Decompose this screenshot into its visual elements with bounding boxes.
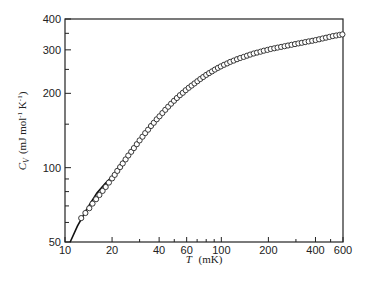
data-point [90, 201, 95, 206]
x-axis-title: T (mK) [186, 253, 223, 266]
x-tick-label: 200 [259, 244, 277, 256]
y-axis-title: CV(mJ mol-1 K-1) [16, 91, 31, 170]
data-point [83, 210, 88, 215]
data-point [87, 206, 92, 211]
heat-capacity-chart: 10204060100200400600 50100200300400 T (m… [0, 0, 369, 282]
data-points [79, 32, 345, 221]
y-tick-label: 50 [49, 236, 61, 248]
x-tick-label: 400 [306, 244, 324, 256]
x-tick-label: 40 [153, 244, 165, 256]
y-tick-label: 400 [43, 13, 61, 25]
y-tick-label: 100 [43, 162, 61, 174]
fit-curve [70, 34, 343, 242]
x-tick-label: 600 [334, 244, 352, 256]
x-tick-label: 20 [106, 244, 118, 256]
plot-frame [65, 19, 343, 242]
data-point [79, 216, 84, 221]
y-tick-label: 200 [43, 87, 61, 99]
fit-curve-line [70, 34, 343, 242]
plot-border [65, 19, 343, 242]
y-tick-label: 300 [43, 44, 61, 56]
y-axis-ticks: 50100200300400 [43, 13, 71, 248]
data-point [340, 32, 345, 37]
